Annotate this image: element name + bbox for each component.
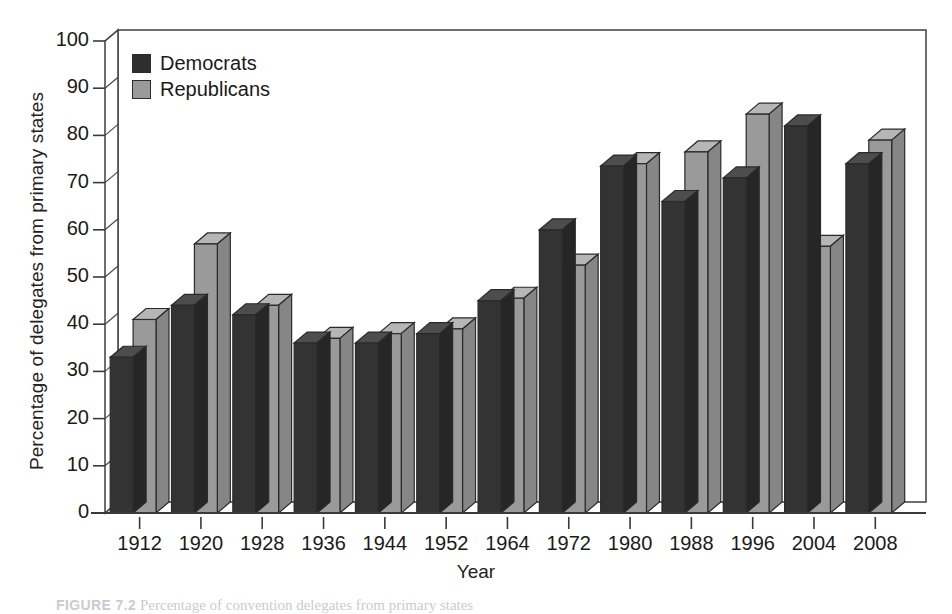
bar-side-face xyxy=(585,254,598,513)
bar-side-face xyxy=(624,155,637,513)
bar-front-face xyxy=(601,166,624,513)
bar-democrats-1952 xyxy=(417,323,453,513)
figure-caption-text: Percentage of convention delegates from … xyxy=(140,597,473,613)
bar-side-face xyxy=(156,308,169,513)
y-tick-label: 100 xyxy=(33,28,89,51)
bar-democrats-1912 xyxy=(110,346,146,513)
bar-side-face xyxy=(463,318,476,513)
bar-side-face xyxy=(317,332,330,513)
bar-side-face xyxy=(685,190,698,513)
x-tick-label-1912: 1912 xyxy=(105,532,175,555)
bar-front-face xyxy=(662,201,685,513)
bar-democrats-1988 xyxy=(662,190,698,513)
x-tick-label-2004: 2004 xyxy=(779,532,849,555)
bar-side-face xyxy=(892,129,905,513)
bar-side-face xyxy=(807,115,820,513)
bar-side-face xyxy=(194,294,207,513)
bar-front-face xyxy=(785,126,808,513)
x-tick-label-1980: 1980 xyxy=(595,532,665,555)
bar-side-face xyxy=(830,235,843,513)
y-tick-label: 80 xyxy=(33,122,89,145)
legend-item-republicans: Republicans xyxy=(132,76,270,102)
bar-side-face xyxy=(279,294,292,513)
bar-side-face xyxy=(256,304,269,513)
y-tick-label: 10 xyxy=(33,453,89,476)
chart-legend: Democrats Republicans xyxy=(132,50,270,102)
y-tick-label: 40 xyxy=(33,311,89,334)
bar-front-face xyxy=(172,305,195,513)
x-tick-label-1928: 1928 xyxy=(227,532,297,555)
x-tick-label-1972: 1972 xyxy=(534,532,604,555)
x-tick-label-1952: 1952 xyxy=(411,532,481,555)
bar-democrats-2008 xyxy=(846,153,882,513)
bar-front-face xyxy=(539,230,562,513)
x-tick-label-2008: 2008 xyxy=(840,532,910,555)
x-tick-label-1988: 1988 xyxy=(656,532,726,555)
bar-side-face xyxy=(501,290,514,513)
bar-side-face xyxy=(869,153,882,513)
legend-label-democrats: Democrats xyxy=(160,51,257,76)
legend-item-democrats: Democrats xyxy=(132,50,270,76)
bar-side-face xyxy=(440,323,453,513)
y-tick-label: 70 xyxy=(33,170,89,193)
bar-side-face xyxy=(378,332,391,513)
bar-democrats-1996 xyxy=(723,167,759,513)
y-tick-label: 90 xyxy=(33,75,89,98)
legend-swatch-democrats xyxy=(132,54,151,73)
bar-democrats-2004 xyxy=(785,115,821,513)
figure-caption: FIGURE 7.2 Percentage of convention dele… xyxy=(56,597,473,614)
bar-front-face xyxy=(233,315,256,513)
x-tick-label-1944: 1944 xyxy=(350,532,420,555)
bar-side-face xyxy=(746,167,759,513)
x-tick-label-1936: 1936 xyxy=(289,532,359,555)
figure-caption-label: FIGURE 7.2 xyxy=(56,597,136,613)
legend-swatch-republicans xyxy=(132,80,151,99)
x-tick-label-1996: 1996 xyxy=(718,532,788,555)
bar-front-face xyxy=(294,343,317,513)
bar-front-face xyxy=(355,343,378,513)
bar-democrats-1980 xyxy=(601,155,637,513)
bar-side-face xyxy=(769,103,782,513)
bar-democrats-1936 xyxy=(294,332,330,513)
bar-side-face xyxy=(708,141,721,513)
x-axis-ticks xyxy=(140,517,876,529)
x-tick-label-1920: 1920 xyxy=(166,532,236,555)
x-tick-label-1964: 1964 xyxy=(472,532,542,555)
bar-side-face xyxy=(401,323,414,513)
bar-front-face xyxy=(478,301,501,513)
y-tick-label: 0 xyxy=(33,500,89,523)
bar-front-face xyxy=(417,334,440,513)
bar-side-face xyxy=(133,346,146,513)
legend-label-republicans: Republicans xyxy=(160,77,270,102)
bar-democrats-1944 xyxy=(355,332,391,513)
bar-front-face xyxy=(846,164,869,513)
bar-side-face xyxy=(562,219,575,513)
bar-democrats-1920 xyxy=(172,294,208,513)
bar-democrats-1972 xyxy=(539,219,575,513)
bar-side-face xyxy=(217,233,230,513)
bar-democrats-1928 xyxy=(233,304,269,513)
bar-front-face xyxy=(110,357,133,513)
bar-democrats-1964 xyxy=(478,290,514,513)
bar-side-face xyxy=(524,287,537,513)
bar-side-face xyxy=(340,327,353,513)
y-tick-label: 50 xyxy=(33,264,89,287)
y-tick-label: 60 xyxy=(33,217,89,240)
x-axis-title: Year xyxy=(0,561,952,583)
bar-side-face xyxy=(646,153,659,513)
y-tick-label: 30 xyxy=(33,358,89,381)
y-tick-label: 20 xyxy=(33,406,89,429)
bar-front-face xyxy=(723,178,746,513)
